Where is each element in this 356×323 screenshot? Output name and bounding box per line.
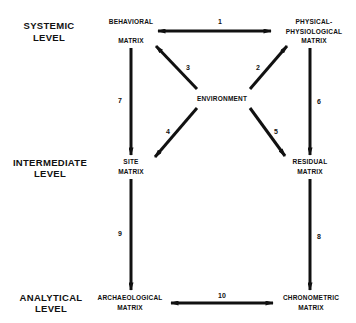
node-label-line: PHYSIOLOGICAL [286, 29, 342, 36]
level-label-line: INTERMEDIATE [13, 158, 87, 168]
arrow-number-1: 1 [218, 18, 222, 25]
node-archaeological-matrix: ARCHAEOLOGICAL MATRIX [98, 295, 163, 311]
level-label-line: ANALYTICAL [20, 293, 83, 303]
level-label-intermediate: INTERMEDIATE LEVEL [13, 158, 87, 178]
node-label-line: BEHAVIORAL [109, 19, 154, 26]
node-label-line: PHYSICAL- [286, 19, 342, 26]
node-label-line: MATRIX [286, 38, 342, 45]
node-chronometric-matrix: CHRONOMETRIC MATRIX [283, 295, 339, 311]
arrow-number-8: 8 [317, 233, 321, 240]
level-label-line: SYSTEMIC [24, 21, 75, 31]
level-label-systemic: SYSTEMIC LEVEL [24, 21, 75, 42]
level-label-analytical: ANALYTICAL LEVEL [20, 293, 83, 313]
arrow-number-3: 3 [186, 64, 190, 71]
level-label-line: LEVEL [24, 33, 75, 43]
arrow-number-2: 2 [256, 64, 260, 71]
arrow-4 [155, 108, 197, 157]
node-physical-physiological-matrix: PHYSICAL- PHYSIOLOGICAL MATRIX [286, 19, 342, 45]
node-label-line: ENVIRONMENT [197, 96, 247, 103]
arrow-number-9: 9 [118, 230, 122, 237]
matrix-flow-diagram: SYSTEMIC LEVEL INTERMEDIATE LEVEL ANALYT… [0, 0, 356, 323]
node-label-line: RESIDUAL [293, 159, 328, 166]
node-site-matrix: SITE MATRIX [118, 159, 144, 175]
node-label-line: ARCHAEOLOGICAL [98, 295, 163, 302]
node-label-line: MATRIX [283, 305, 339, 312]
node-label-line: MATRIX [293, 169, 328, 176]
node-behavioral-matrix: BEHAVIORAL MATRIX [109, 19, 154, 44]
arrow-number-7: 7 [118, 97, 122, 104]
node-environment: ENVIRONMENT [197, 96, 247, 103]
node-label-line: MATRIX [98, 305, 163, 312]
node-label-line: CHRONOMETRIC [283, 295, 339, 302]
level-label-line: LEVEL [20, 304, 83, 314]
arrow-number-10: 10 [218, 292, 226, 299]
node-label-line: MATRIX [109, 38, 154, 45]
arrow-5 [250, 108, 285, 156]
arrow-number-4: 4 [166, 128, 170, 135]
node-residual-matrix: RESIDUAL MATRIX [293, 159, 328, 175]
node-label-line: MATRIX [118, 169, 144, 176]
node-label-line: SITE [118, 159, 144, 166]
level-label-line: LEVEL [13, 169, 87, 179]
arrow-3 [156, 46, 197, 89]
arrow-number-5: 5 [274, 128, 278, 135]
arrow-number-6: 6 [317, 98, 321, 105]
